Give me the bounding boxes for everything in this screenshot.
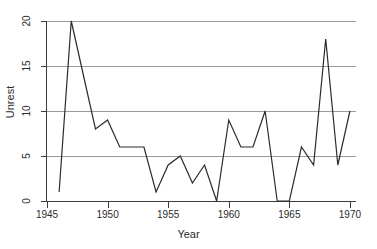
y-tick-5	[41, 156, 47, 157]
x-tick-label: 1955	[148, 209, 188, 220]
x-tick-label: 1965	[269, 209, 309, 220]
x-tick-label: 1960	[209, 209, 249, 220]
x-axis-title: Year	[0, 228, 377, 240]
y-tick-label: 5	[14, 149, 40, 163]
x-axis-spine	[46, 201, 356, 202]
plot-area	[47, 21, 356, 201]
unrest-by-year-line-chart: 05101520 194519501955196019651970 Unrest…	[0, 0, 377, 249]
x-tick-label: 1945	[27, 209, 67, 220]
gridline-y-5	[47, 156, 356, 157]
y-tick-label: 20	[14, 14, 40, 28]
gridline-y-10	[47, 111, 356, 112]
x-tick-label: 1950	[88, 209, 128, 220]
x-tick-1950	[108, 202, 109, 208]
x-tick-1960	[229, 202, 230, 208]
y-tick-10	[41, 111, 47, 112]
y-tick-label: 10	[14, 104, 40, 118]
y-tick-label-text: 5	[20, 143, 34, 169]
x-tick-label: 1970	[330, 209, 370, 220]
y-tick-label-text: 20	[20, 8, 34, 34]
gridline-y-20	[47, 21, 356, 22]
y-tick-label: 0	[14, 194, 40, 208]
gridline-y-15	[47, 66, 356, 67]
y-tick-label-text: 10	[20, 98, 34, 124]
x-tick-1970	[350, 202, 351, 208]
y-axis-title: Unrest	[4, 70, 16, 134]
y-tick-20	[41, 21, 47, 22]
x-tick-1955	[168, 202, 169, 208]
y-tick-15	[41, 66, 47, 67]
y-tick-label-text: 15	[20, 53, 34, 79]
x-tick-1965	[289, 202, 290, 208]
y-tick-label: 15	[14, 59, 40, 73]
x-tick-1945	[47, 202, 48, 208]
